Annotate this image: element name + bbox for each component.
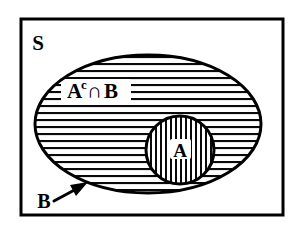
venn-diagram-page: S A c ∩ B A B — [0, 0, 302, 233]
venn-diagram-canvas: S A c ∩ B A B — [0, 0, 302, 233]
region-label-operand: B — [104, 79, 118, 103]
region-label-operator: ∩ — [87, 79, 102, 103]
sample-space-label: S — [32, 31, 44, 55]
set-b-label: B — [37, 190, 50, 212]
region-label-a-complement-intersect-b: A c ∩ B — [67, 77, 118, 103]
set-a-label: A — [173, 140, 187, 161]
